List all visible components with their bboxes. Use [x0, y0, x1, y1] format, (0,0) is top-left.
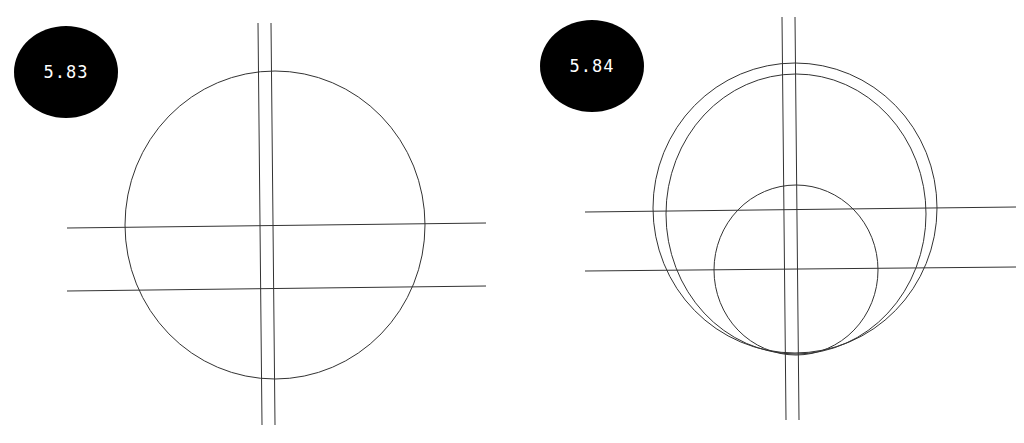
vertical-line	[271, 23, 275, 425]
value-label: 5.84	[570, 56, 615, 76]
horizontal-line	[585, 207, 1016, 212]
horizontal-line	[67, 223, 486, 228]
horizontal-line	[67, 286, 486, 291]
vertical-line	[782, 17, 786, 420]
value-label: 5.83	[44, 62, 89, 82]
value-badge-left: 5.83	[14, 26, 118, 118]
right-panel-geometry	[585, 17, 1016, 420]
circle-outline	[125, 71, 425, 379]
horizontal-line	[585, 267, 1016, 271]
vertical-line	[795, 17, 799, 420]
value-badge-right: 5.84	[540, 20, 644, 112]
diagram-canvas	[0, 0, 1024, 443]
left-panel-geometry	[67, 23, 486, 425]
vertical-line	[258, 23, 262, 425]
